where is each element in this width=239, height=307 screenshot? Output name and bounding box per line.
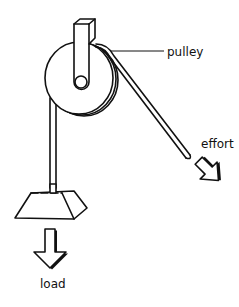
load-arrow-icon (34, 229, 68, 270)
load-weight (15, 184, 87, 219)
left-rope (50, 98, 56, 188)
effort-arrow-icon (190, 151, 229, 190)
effort-label: effort (201, 137, 234, 151)
pulley-diagram: pulley effort load (0, 0, 239, 307)
pulley-label: pulley (167, 45, 203, 59)
load-label: load (40, 277, 66, 291)
axle-hub (75, 76, 87, 88)
